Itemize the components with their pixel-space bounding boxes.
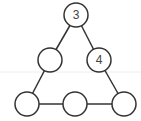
node-left-mid [38, 48, 62, 72]
node-circle [15, 92, 39, 116]
node-top: 3 [64, 3, 88, 27]
node-label: 4 [96, 53, 103, 67]
node-bottom-mid [63, 92, 87, 116]
node-circle [112, 92, 136, 116]
node-bottom-right [112, 92, 136, 116]
node-circle [38, 48, 62, 72]
node-right-mid: 4 [87, 48, 111, 72]
triangle-diagram: 34 [0, 0, 141, 121]
node-label: 3 [73, 8, 80, 22]
node-bottom-left [15, 92, 39, 116]
node-circle [63, 92, 87, 116]
nodes: 34 [15, 3, 136, 116]
